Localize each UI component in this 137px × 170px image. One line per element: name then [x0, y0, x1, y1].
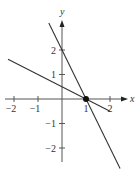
points	[83, 96, 89, 102]
x-tick-label: −2	[6, 103, 17, 114]
x-tick-label: 1	[84, 103, 89, 114]
axes	[5, 20, 128, 162]
x-tick-label: −1	[30, 103, 41, 114]
x-axis-arrow-icon	[121, 97, 128, 102]
series	[8, 23, 120, 169]
chart: −2−112−2−112 x y	[0, 0, 137, 170]
y-axis-label: y	[59, 6, 65, 17]
series-steep-line	[49, 23, 120, 169]
y-tick-label: −2	[45, 143, 56, 154]
series-shallow-line	[8, 59, 110, 111]
y-axis-arrow-icon	[60, 20, 65, 27]
x-axis-label: x	[129, 93, 135, 104]
y-tick-label: 2	[51, 45, 56, 56]
y-tick-label: 1	[51, 69, 56, 80]
x-tick-label: 2	[108, 103, 113, 114]
point-intersection	[83, 96, 89, 102]
y-tick-label: −1	[45, 118, 56, 129]
